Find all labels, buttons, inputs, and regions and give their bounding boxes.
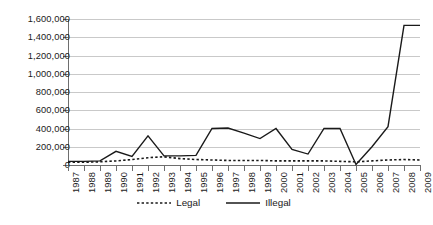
legend-label-illegal: Illegal — [265, 198, 291, 208]
legend-swatch-legal — [137, 199, 171, 207]
legend-label-legal: Legal — [176, 198, 200, 208]
series-line-legal — [68, 157, 420, 162]
legend-swatch-illegal — [226, 199, 260, 207]
legend-item-illegal: Illegal — [226, 198, 291, 208]
chart-legend: Legal Illegal — [0, 198, 428, 208]
legend-item-legal: Legal — [137, 198, 200, 208]
series-line-illegal — [68, 25, 420, 164]
